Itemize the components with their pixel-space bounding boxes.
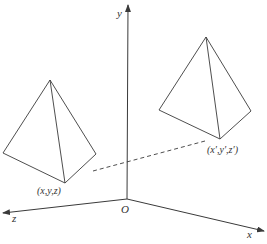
original-tetrahedron — [3, 80, 96, 183]
y-axis — [127, 5, 128, 199]
translated-tetrahedron — [159, 37, 251, 139]
diagram-svg: y z x O (x,y,z) (x′,y′,z′) — [0, 0, 267, 244]
transformed-point-label: (x′,y′,z′) — [207, 144, 239, 156]
origin-label: O — [121, 203, 129, 215]
x-axis — [127, 199, 264, 231]
z-axis-label: z — [11, 212, 17, 224]
translation-dashed-line — [93, 141, 205, 171]
original-point-label: (x,y,z) — [37, 185, 62, 197]
y-axis-label: y — [116, 7, 122, 19]
z-axis — [3, 199, 127, 213]
x-axis-label: x — [246, 228, 252, 240]
diagram-canvas: y z x O (x,y,z) (x′,y′,z′) — [0, 0, 267, 244]
